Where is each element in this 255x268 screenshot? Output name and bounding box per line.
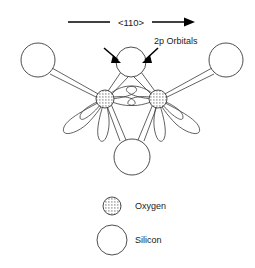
silicon-atom-top-left bbox=[21, 43, 55, 77]
legend-group: Oxygen Silicon bbox=[97, 197, 166, 255]
legend-oxygen-label: Oxygen bbox=[135, 201, 166, 211]
legend-silicon-swatch-icon bbox=[97, 225, 127, 255]
diagram-canvas: <110> bbox=[0, 0, 255, 268]
direction-indicator-group: <110> bbox=[68, 17, 195, 28]
bond-si-left-o-left-b bbox=[50, 74, 100, 99]
silica-bonding-diagram: <110> bbox=[0, 0, 255, 268]
direction-label: <110> bbox=[118, 17, 145, 28]
legend-silicon-label: Silicon bbox=[135, 235, 162, 245]
oxygen-atom-left bbox=[96, 90, 114, 108]
oxygen-atom-right bbox=[149, 90, 167, 108]
annotation-label: 2p Orbitals bbox=[154, 36, 198, 46]
silicon-atoms-group bbox=[21, 43, 243, 175]
legend-oxygen-swatch-icon bbox=[103, 197, 121, 215]
silicon-atom-top-right bbox=[209, 43, 243, 77]
bond-lines-group bbox=[50, 68, 214, 141]
bond-si-right-o-right-b bbox=[163, 74, 214, 99]
silicon-atom-bottom-center bbox=[114, 139, 150, 175]
silicon-atom-top-center bbox=[116, 47, 146, 77]
direction-arrowhead-icon bbox=[184, 18, 195, 27]
bond-si-right-o-right-a bbox=[163, 68, 212, 95]
bond-si-left-o-left-a bbox=[52, 68, 100, 95]
